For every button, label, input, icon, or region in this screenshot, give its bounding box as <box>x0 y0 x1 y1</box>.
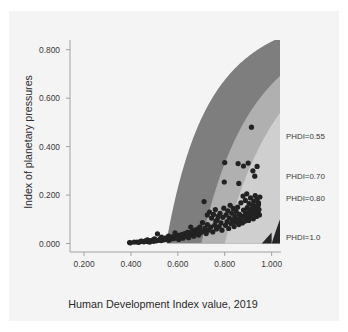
scatter-point <box>250 168 255 173</box>
scatter-point <box>132 239 137 244</box>
scatter-point <box>254 164 259 169</box>
scatter-point <box>205 212 210 217</box>
phdi-annotation-1: PHDI=0.70 <box>286 172 325 181</box>
phdi-annotation-2: PHDI=0.80 <box>286 194 325 203</box>
x-tick-label: 0.400 <box>111 259 151 269</box>
y-tick-label: 0.200 <box>26 190 60 200</box>
scatter-point <box>244 191 249 196</box>
scatter-point <box>145 237 150 242</box>
scatter-point <box>138 239 143 244</box>
scatter-point <box>238 200 243 205</box>
scatter-point <box>222 179 227 184</box>
x-axis-label: Human Development Index value, 2019 <box>28 298 298 310</box>
scatter-point <box>226 226 231 231</box>
x-tick-label: 1.000 <box>252 259 292 269</box>
y-tick-label: 0.000 <box>26 239 60 249</box>
phdi-bands-group <box>167 37 281 243</box>
chart-figure: Index of planetary pressures Human Devel… <box>0 0 348 332</box>
scatter-point <box>218 220 223 225</box>
scatter-point <box>200 220 205 225</box>
x-tick-marks <box>84 252 272 256</box>
scatter-point <box>252 174 257 179</box>
scatter-point <box>249 125 254 130</box>
scatter-point <box>257 194 262 199</box>
y-tick-label: 0.400 <box>26 142 60 152</box>
scatter-point <box>241 163 246 168</box>
phdi-annotation-0: PHDI=0.55 <box>286 132 325 141</box>
scatter-point <box>213 219 218 224</box>
scatter-point <box>188 224 193 229</box>
scatter-point <box>159 235 164 240</box>
scatter-point <box>155 231 160 236</box>
scatter-point <box>211 212 216 217</box>
scatter-point <box>180 236 185 241</box>
scatter-point <box>256 202 261 207</box>
scatter-point <box>172 230 177 235</box>
scatter-point <box>235 205 240 210</box>
x-tick-label: 0.600 <box>158 259 198 269</box>
y-tick-label: 0.600 <box>26 93 60 103</box>
scatter-point <box>257 212 262 217</box>
scatter-point <box>256 207 261 212</box>
scatter-point <box>246 160 251 165</box>
phdi-annotation-3: PHDI=1.0 <box>286 233 320 242</box>
y-tick-label: 0.800 <box>26 45 60 55</box>
x-tick-label: 0.200 <box>64 259 104 269</box>
scatter-point <box>196 228 201 233</box>
scatter-point <box>222 160 227 165</box>
scatter-point <box>166 233 171 238</box>
x-tick-label: 0.800 <box>205 259 245 269</box>
scatter-point <box>236 161 241 166</box>
y-tick-marks <box>66 50 70 244</box>
scatter-point <box>152 236 157 241</box>
scatter-point <box>236 181 241 186</box>
scatter-point <box>219 228 224 233</box>
scatter-point <box>202 199 207 204</box>
scatter-point <box>213 207 218 212</box>
